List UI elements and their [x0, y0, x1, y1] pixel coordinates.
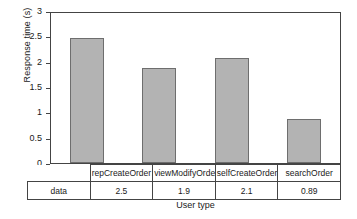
y-tick-label: 2: [37, 57, 42, 67]
bar-chart-figure: Response time (s) 00.511.522.53 repCreat…: [0, 0, 357, 219]
y-tick-label: 1.5: [29, 82, 42, 92]
y-axis-title: Response time (s): [22, 0, 32, 110]
bar-slot: [268, 13, 340, 163]
y-tick-label: 1: [37, 107, 42, 117]
table-row-categories: repCreateOrderviewModifyOrderselfCreateO…: [28, 165, 341, 182]
bars-layer: [51, 13, 340, 163]
table-value-cell: 2.5: [90, 182, 153, 200]
data-table: repCreateOrderviewModifyOrderselfCreateO…: [27, 164, 341, 200]
table-value-cell: 2.1: [215, 182, 278, 200]
bar-slot: [123, 13, 195, 163]
y-tick-label: 0.5: [29, 133, 42, 143]
bar-viewModifyOrder[interactable]: [142, 68, 176, 163]
y-tick-label: 2.5: [29, 31, 42, 41]
table-category-cell: selfCreateOrder: [215, 165, 278, 182]
table-category-cell: repCreateOrder: [90, 165, 153, 182]
table-row-values: data 2.51.92.10.89: [28, 182, 341, 200]
table-row-label: data: [28, 182, 91, 200]
table-category-cell: viewModifyOrder: [153, 165, 216, 182]
table-category-cell: searchOrder: [278, 165, 341, 182]
x-axis-title: User type: [50, 200, 341, 210]
bar-slot: [51, 13, 123, 163]
bar-repCreateOrder[interactable]: [70, 38, 104, 163]
table-value-cell: 0.89: [278, 182, 341, 200]
bar-selfCreateOrder[interactable]: [215, 58, 249, 163]
bar-searchOrder[interactable]: [287, 119, 321, 164]
bar-slot: [196, 13, 268, 163]
table-value-cell: 1.9: [153, 182, 216, 200]
y-tick-label: 3: [37, 6, 42, 16]
table-corner-cell: [28, 165, 91, 182]
